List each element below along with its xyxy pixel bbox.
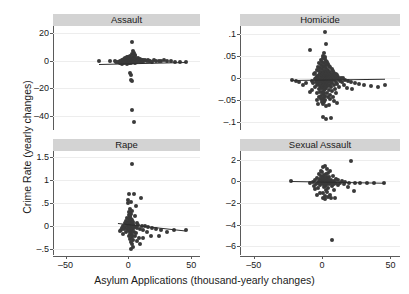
x-tick-label: –50 bbox=[246, 260, 261, 270]
y-tick bbox=[237, 225, 240, 226]
y-tick bbox=[237, 160, 240, 161]
x-tick-label: 0 bbox=[320, 260, 325, 270]
data-point bbox=[129, 73, 133, 77]
x-tick bbox=[322, 256, 323, 259]
y-tick-label: –40 bbox=[34, 111, 49, 121]
y-tick-label: 1.5 bbox=[36, 152, 49, 162]
data-point bbox=[129, 247, 133, 251]
y-tick bbox=[237, 246, 240, 247]
data-point bbox=[127, 192, 131, 196]
y-tick-label: –.1 bbox=[223, 117, 236, 127]
y-tick bbox=[50, 203, 53, 204]
y-tick bbox=[50, 249, 53, 250]
y-tick bbox=[237, 181, 240, 182]
data-point bbox=[333, 87, 337, 91]
plot-area-sexual-assault: 20–2–4–6 bbox=[240, 151, 400, 255]
panel-homicide: Homicide .1.050–.05–.1 bbox=[240, 14, 400, 130]
panel-title-rape: Rape bbox=[53, 139, 200, 151]
data-point bbox=[323, 30, 327, 34]
data-point bbox=[357, 82, 361, 86]
data-point bbox=[362, 83, 366, 87]
y-tick bbox=[237, 34, 240, 35]
y-axis-title: Crime Rate (yearly changes) bbox=[18, 0, 36, 294]
data-point bbox=[369, 84, 373, 88]
gridline bbox=[240, 160, 400, 161]
data-point bbox=[336, 183, 340, 187]
data-point bbox=[330, 238, 334, 242]
data-point bbox=[304, 81, 308, 85]
y-tick-label: .05 bbox=[223, 51, 236, 61]
y-tick-label: .5 bbox=[41, 198, 49, 208]
plot-area-homicide: .1.050–.05–.1 bbox=[240, 26, 400, 130]
data-point bbox=[383, 83, 387, 87]
x-tick bbox=[128, 256, 129, 259]
y-tick bbox=[50, 88, 53, 89]
y-tick-label: –20 bbox=[34, 83, 49, 93]
y-tick-label: 0 bbox=[231, 73, 236, 83]
x-tick-label: 50 bbox=[385, 260, 395, 270]
x-axis-line bbox=[53, 256, 200, 257]
y-tick-label: 20 bbox=[39, 28, 49, 38]
y-tick bbox=[237, 122, 240, 123]
data-point bbox=[324, 42, 328, 46]
x-axis-title: Asylum Applications (thousand-yearly cha… bbox=[0, 274, 409, 286]
y-tick bbox=[50, 61, 53, 62]
data-point bbox=[376, 85, 380, 89]
data-point bbox=[130, 79, 134, 83]
panel-title-homicide: Homicide bbox=[240, 14, 400, 26]
gridline bbox=[53, 33, 200, 34]
data-point bbox=[132, 120, 136, 124]
x-tick-label: –50 bbox=[58, 260, 73, 270]
y-tick bbox=[50, 116, 53, 117]
scatter-plot-matrix-figure: Crime Rate (yearly changes) Asylum Appli… bbox=[0, 0, 409, 294]
x-axis-left: –50050 bbox=[53, 256, 200, 272]
y-tick bbox=[50, 226, 53, 227]
y-tick-label: –6 bbox=[226, 241, 236, 251]
y-tick bbox=[50, 157, 53, 158]
y-tick bbox=[237, 100, 240, 101]
y-tick-label: 1 bbox=[44, 175, 49, 185]
y-tick-label: –.05 bbox=[218, 95, 236, 105]
panel-rape: Rape 1.51.50–.5 bbox=[53, 139, 200, 255]
data-point bbox=[333, 196, 337, 200]
plot-area-assault: 200–20–40 bbox=[53, 26, 200, 130]
data-point bbox=[324, 117, 328, 121]
panel-sexual-assault: Sexual Assault 20–2–4–6 bbox=[240, 139, 400, 255]
gridline bbox=[240, 56, 400, 57]
data-point bbox=[165, 230, 169, 234]
y-tick bbox=[237, 78, 240, 79]
x-tick bbox=[66, 256, 67, 259]
data-point bbox=[130, 108, 134, 112]
data-point bbox=[308, 90, 312, 94]
y-tick-label: –4 bbox=[226, 220, 236, 230]
y-tick bbox=[50, 33, 53, 34]
data-point bbox=[139, 196, 143, 200]
x-axis-line bbox=[240, 256, 400, 257]
x-tick-label: 0 bbox=[126, 260, 131, 270]
y-tick-label: 0 bbox=[231, 176, 236, 186]
data-point bbox=[129, 200, 133, 204]
gridline bbox=[53, 180, 200, 181]
gridline bbox=[53, 88, 200, 89]
data-point bbox=[134, 204, 138, 208]
data-point bbox=[308, 48, 312, 52]
data-point bbox=[121, 232, 125, 236]
data-point bbox=[130, 162, 134, 166]
data-point bbox=[346, 185, 350, 189]
data-point bbox=[97, 59, 101, 63]
panel-assault: Assault 200–20–40 bbox=[53, 14, 200, 130]
x-tick bbox=[390, 256, 391, 259]
y-tick-label: .1 bbox=[228, 29, 236, 39]
data-point bbox=[138, 242, 142, 246]
y-tick-label: –2 bbox=[226, 198, 236, 208]
y-tick bbox=[237, 203, 240, 204]
y-tick-label: 0 bbox=[44, 56, 49, 66]
x-tick bbox=[254, 256, 255, 259]
data-point bbox=[345, 86, 349, 90]
data-point bbox=[350, 87, 354, 91]
panel-title-assault: Assault bbox=[53, 14, 200, 26]
data-point bbox=[157, 234, 161, 238]
data-point bbox=[149, 234, 153, 238]
data-point bbox=[316, 102, 320, 106]
data-point bbox=[132, 192, 136, 196]
